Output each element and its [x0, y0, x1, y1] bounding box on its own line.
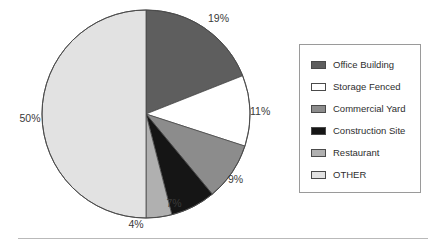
legend-item: Storage Fenced	[300, 76, 420, 98]
pie-slice	[42, 10, 146, 218]
slice-label-restaurant: 4%	[128, 218, 143, 230]
legend-swatch-icon	[311, 61, 326, 69]
legend-item: Office Building	[300, 54, 420, 76]
slice-label-construction-site: 7%	[166, 197, 181, 209]
legend-item-label: Construction Site	[333, 126, 405, 136]
legend-item: Commercial Yard	[300, 98, 420, 120]
legend-swatch-icon	[311, 149, 326, 157]
legend-swatch-icon	[311, 105, 326, 113]
legend-swatch-icon	[311, 127, 326, 135]
legend-item-label: Restaurant	[333, 148, 379, 158]
footer-divider	[18, 238, 428, 239]
pie-slices-group	[42, 10, 250, 218]
pie-chart-svg: 19% 11% 9% 7% 4% 50%	[0, 0, 290, 235]
legend-item: Restaurant	[300, 142, 420, 164]
pie-chart-figure: 19% 11% 9% 7% 4% 50% Office Building Sto…	[0, 0, 435, 249]
slice-label-storage-fenced: 11%	[250, 105, 270, 117]
slice-label-office-building: 19%	[208, 12, 229, 24]
legend-item-label: OTHER	[333, 170, 366, 180]
legend-item-label: Commercial Yard	[333, 104, 406, 114]
pie-chart-area: 19% 11% 9% 7% 4% 50%	[0, 0, 290, 235]
slice-label-other: 50%	[19, 112, 40, 124]
slice-label-commercial-yard: 9%	[228, 173, 243, 185]
legend-swatch-icon	[311, 171, 326, 179]
legend-item-label: Office Building	[333, 60, 394, 70]
legend-item: Construction Site	[300, 120, 420, 142]
legend-item: OTHER	[300, 164, 420, 186]
legend-swatch-icon	[311, 83, 326, 91]
chart-legend: Office Building Storage Fenced Commercia…	[299, 44, 421, 193]
legend-item-label: Storage Fenced	[333, 82, 401, 92]
